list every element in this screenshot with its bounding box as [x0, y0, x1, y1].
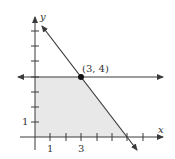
y-tick-label-1: 1 — [22, 116, 28, 127]
x-tick-label-3: 3 — [78, 143, 84, 154]
x-tick-label-1: 1 — [47, 143, 53, 154]
decreasing-line-upper — [42, 26, 81, 77]
y-axis-label: y — [39, 11, 46, 22]
intersection-point — [78, 74, 84, 80]
point-label: (3, 4) — [82, 63, 109, 74]
shaded-region — [35, 77, 127, 137]
graph: (3, 4) x y 1 3 1 — [0, 0, 175, 159]
x-axis-label: x — [158, 124, 164, 135]
